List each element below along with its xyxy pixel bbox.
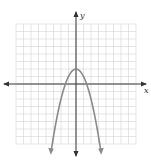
x-axis-arrow-left (3, 82, 9, 87)
y-axis-arrow-down (74, 151, 79, 157)
curve-arrow-right (98, 148, 104, 155)
y-axis-label: y (79, 11, 85, 20)
curve-arrow-left (48, 148, 54, 155)
x-axis-label: x (144, 86, 149, 95)
y-axis-arrow-up (74, 11, 79, 17)
parabola-chart: x y (0, 0, 151, 160)
